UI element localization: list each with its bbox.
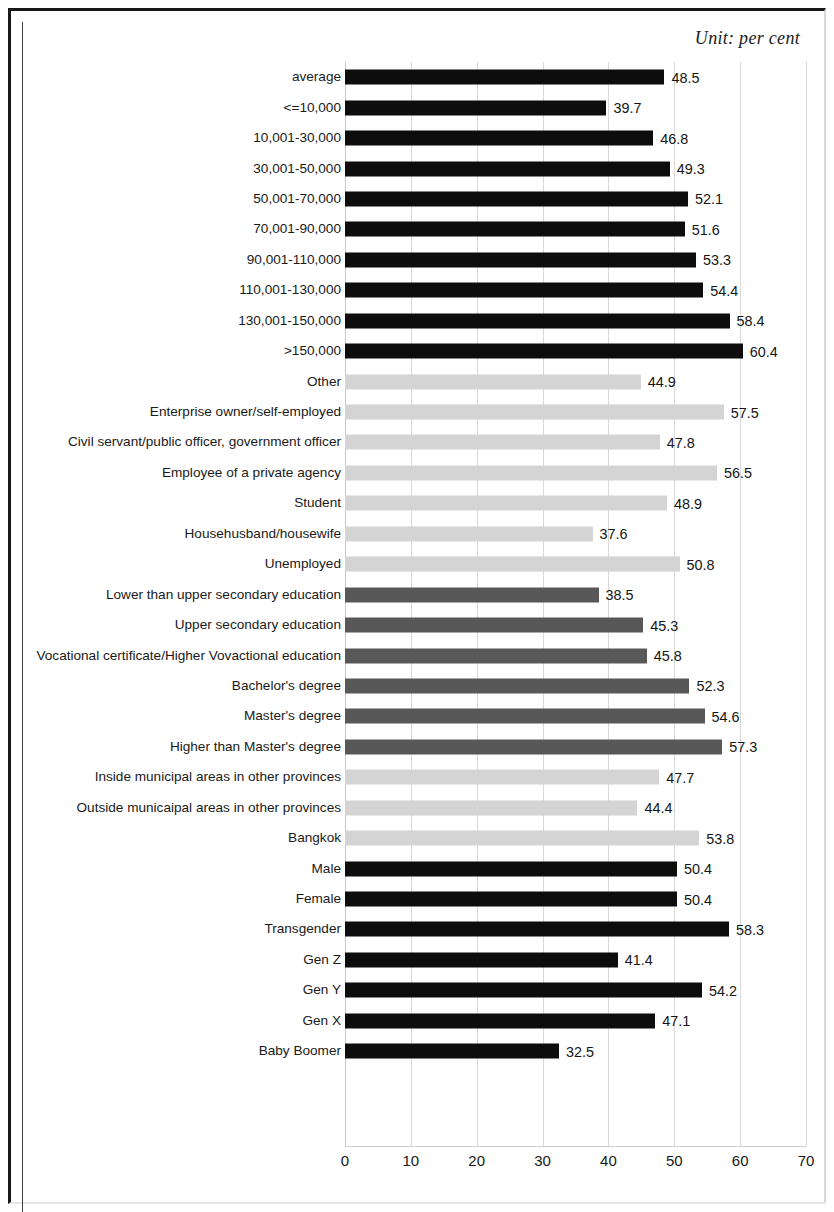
category-label: Enterprise owner/self-employed (150, 405, 341, 419)
bar-container: 50.8 (345, 557, 680, 572)
bar-row[interactable]: 110,001-130,00054.4 (0, 275, 834, 305)
category-label: Upper secondary education (175, 618, 341, 632)
bar[interactable] (345, 831, 699, 846)
bar[interactable] (345, 618, 643, 633)
bar-row[interactable]: Civil servant/public officer, government… (0, 427, 834, 457)
bar[interactable] (345, 1044, 559, 1059)
bar-row[interactable]: Unemployed50.8 (0, 549, 834, 579)
bar-value-label: 50.8 (687, 556, 715, 572)
bar-row[interactable]: Bachelor's degree52.3 (0, 671, 834, 701)
bar[interactable] (345, 892, 677, 907)
bar[interactable] (345, 770, 659, 785)
bar-value-label: 46.8 (660, 130, 688, 146)
bar-value-label: 37.6 (600, 526, 628, 542)
bar-value-label: 48.5 (671, 69, 699, 85)
bar[interactable] (345, 161, 670, 176)
bar-row[interactable]: Transgender58.3 (0, 914, 834, 944)
category-label: Vocational certificate/Higher Vovactiona… (36, 648, 341, 662)
bar-row[interactable]: Employee of a private agency56.5 (0, 458, 834, 488)
bar-value-label: 45.3 (650, 617, 678, 633)
bar-row[interactable]: Bangkok53.8 (0, 823, 834, 853)
bar[interactable] (345, 131, 653, 146)
bar-container: 50.4 (345, 861, 677, 876)
bar[interactable] (345, 70, 664, 85)
category-label: Transgender (264, 922, 341, 936)
bar[interactable] (345, 191, 688, 206)
bar[interactable] (345, 405, 724, 420)
bar-row[interactable]: Baby Boomer32.5 (0, 1036, 834, 1066)
bar[interactable] (345, 800, 637, 815)
category-label: 90,001-110,000 (247, 253, 341, 267)
category-label: Baby Boomer (259, 1044, 341, 1058)
bar-row[interactable]: Enterprise owner/self-employed57.5 (0, 397, 834, 427)
bar-container: 50.4 (345, 892, 677, 907)
bar[interactable] (345, 100, 606, 115)
bar-row[interactable]: 10,001-30,00046.8 (0, 123, 834, 153)
x-tick-label: 60 (732, 1152, 749, 1169)
category-label: 10,001-30,000 (253, 131, 341, 145)
bar[interactable] (345, 922, 729, 937)
bar[interactable] (345, 1013, 655, 1028)
bar-container: 54.6 (345, 709, 705, 724)
x-tick-label: 40 (600, 1152, 617, 1169)
bar-row[interactable]: Vocational certificate/Higher Vovactiona… (0, 640, 834, 670)
bar[interactable] (345, 496, 667, 511)
x-axis-line (345, 1146, 806, 1147)
bar-row[interactable]: Gen Y54.2 (0, 975, 834, 1005)
bar[interactable] (345, 374, 641, 389)
bar-row[interactable]: Upper secondary education45.3 (0, 610, 834, 640)
bar-container: 45.8 (345, 648, 647, 663)
bar[interactable] (345, 557, 680, 572)
bar[interactable] (345, 678, 689, 693)
bar[interactable] (345, 283, 703, 298)
bar[interactable] (345, 344, 743, 359)
bar-row[interactable]: Master's degree54.6 (0, 701, 834, 731)
bar[interactable] (345, 252, 696, 267)
bar-row[interactable]: Other44.9 (0, 366, 834, 396)
bar[interactable] (345, 587, 599, 602)
bar-value-label: 39.7 (613, 100, 641, 116)
bar[interactable] (345, 739, 722, 754)
bar[interactable] (345, 313, 730, 328)
bar[interactable] (345, 435, 660, 450)
bar-value-label: 51.6 (692, 221, 720, 237)
category-label: 70,001-90,000 (253, 222, 341, 236)
bar[interactable] (345, 648, 647, 663)
category-label: Master's degree (244, 709, 341, 723)
bar-container: 58.3 (345, 922, 729, 937)
bar[interactable] (345, 983, 702, 998)
bar-row[interactable]: 50,001-70,00052.1 (0, 184, 834, 214)
bar-container: 53.8 (345, 831, 699, 846)
bar[interactable] (345, 709, 705, 724)
bar-row[interactable]: >150,00060.4 (0, 336, 834, 366)
bar[interactable] (345, 952, 618, 967)
bar-value-label: 53.8 (706, 830, 734, 846)
x-tick-label: 30 (534, 1152, 551, 1169)
bar-row[interactable]: 70,001-90,00051.6 (0, 214, 834, 244)
bar-row[interactable]: Male50.4 (0, 853, 834, 883)
bar-row[interactable]: 90,001-110,00053.3 (0, 245, 834, 275)
bar-row[interactable]: Female50.4 (0, 884, 834, 914)
bar-row[interactable]: Student48.9 (0, 488, 834, 518)
bar-row[interactable]: 130,001-150,00058.4 (0, 306, 834, 336)
bar-value-label: 50.4 (684, 891, 712, 907)
bar-row[interactable]: Higher than Master's degree57.3 (0, 732, 834, 762)
bar-row[interactable]: average48.5 (0, 62, 834, 92)
bar[interactable] (345, 222, 685, 237)
bar-container: 52.3 (345, 678, 689, 693)
bar[interactable] (345, 861, 677, 876)
bar-value-label: 57.5 (731, 404, 759, 420)
bar-row[interactable]: 30,001-50,00049.3 (0, 153, 834, 183)
bar-container: 32.5 (345, 1044, 559, 1059)
bar-row[interactable]: Gen Z41.4 (0, 945, 834, 975)
bar-row[interactable]: Outside municaipal areas in other provin… (0, 793, 834, 823)
bar-row[interactable]: Gen X47.1 (0, 1006, 834, 1036)
category-label: Bachelor's degree (232, 679, 341, 693)
bar-row[interactable]: Inside municipal areas in other province… (0, 762, 834, 792)
bar[interactable] (345, 526, 593, 541)
bar-row[interactable]: Househusband/housewife37.6 (0, 519, 834, 549)
bar-row[interactable]: <=10,00039.7 (0, 92, 834, 122)
bar-value-label: 41.4 (625, 952, 653, 968)
bar-row[interactable]: Lower than upper secondary education38.5 (0, 579, 834, 609)
bar[interactable] (345, 465, 717, 480)
